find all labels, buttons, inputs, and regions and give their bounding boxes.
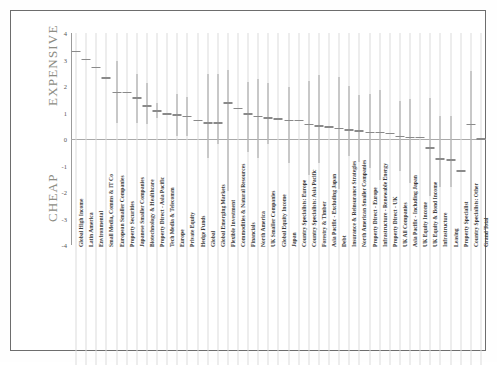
median-marker[interactable]	[304, 124, 313, 126]
x-tick-label: Infrastructure	[442, 213, 448, 247]
chart-frame: EXPENSIVE CHEAP 43210-1-2-3-4 Global Hig…	[10, 10, 486, 351]
x-tick-label: Latin America	[88, 212, 94, 247]
x-tick-label: Grand Total	[483, 218, 489, 247]
median-marker[interactable]	[223, 102, 232, 104]
median-marker[interactable]	[355, 130, 364, 132]
median-marker[interactable]	[456, 170, 465, 172]
range-whisker	[146, 83, 147, 124]
range-whisker	[359, 95, 360, 161]
x-tick-label: Country Specialists: Asia Pacific	[311, 169, 317, 247]
range-whisker	[227, 70, 228, 191]
median-marker[interactable]	[153, 110, 162, 112]
range-whisker	[450, 116, 451, 186]
median-marker[interactable]	[102, 77, 111, 79]
x-tick-label: North American Smaller Companies	[361, 160, 367, 247]
median-marker[interactable]	[375, 132, 384, 134]
x-tick-label: UK Equity Income	[422, 202, 428, 247]
median-marker[interactable]	[72, 51, 81, 53]
x-tick-label: Property Direct - Asia Pacific	[159, 177, 165, 247]
median-marker[interactable]	[82, 59, 91, 61]
median-marker[interactable]	[233, 108, 242, 110]
y-tick-label: -2	[62, 189, 67, 196]
axis-label-expensive: EXPENSIVE	[45, 24, 61, 106]
median-marker[interactable]	[122, 92, 131, 94]
median-marker[interactable]	[264, 117, 273, 119]
median-marker[interactable]	[345, 129, 354, 131]
x-tick-label: Japan	[291, 232, 297, 247]
range-whisker	[288, 87, 289, 163]
x-tick-label: Europe	[179, 229, 185, 247]
median-marker[interactable]	[254, 116, 263, 118]
median-marker[interactable]	[244, 113, 253, 115]
median-marker[interactable]	[112, 92, 121, 94]
median-marker[interactable]	[365, 132, 374, 134]
x-tick-label: Asia Pacific - Including Japan	[412, 175, 418, 247]
median-marker[interactable]	[476, 138, 485, 140]
x-tick-label: Property Securities	[129, 201, 135, 247]
range-whisker	[379, 90, 380, 180]
median-marker[interactable]	[294, 120, 303, 122]
median-marker[interactable]	[314, 125, 323, 127]
x-tick-label: UK All Companies	[402, 202, 408, 247]
range-whisker	[339, 77, 340, 190]
x-tick-label: Biotechnology & Healthcare	[149, 179, 155, 247]
x-tick-label: North America	[260, 211, 266, 247]
y-tick-label: 3	[64, 56, 67, 63]
y-tick-label: 0	[64, 136, 67, 143]
range-whisker	[470, 71, 471, 210]
x-tick-label: Private Equity	[189, 212, 195, 247]
median-marker[interactable]	[132, 97, 141, 99]
x-tick-label: UK Equity & Bond Income	[432, 182, 438, 247]
median-marker[interactable]	[426, 147, 435, 149]
median-marker[interactable]	[436, 158, 445, 160]
x-tick-label: Hedge Funds	[200, 215, 206, 247]
median-marker[interactable]	[335, 128, 344, 130]
median-marker[interactable]	[213, 122, 222, 124]
x-tick-label: Forestry & Timber	[321, 201, 327, 247]
range-whisker	[440, 116, 441, 186]
median-marker[interactable]	[183, 116, 192, 118]
median-marker[interactable]	[466, 124, 475, 126]
median-marker[interactable]	[92, 67, 101, 69]
range-whisker	[217, 74, 218, 144]
median-marker[interactable]	[416, 137, 425, 139]
median-marker[interactable]	[395, 136, 404, 138]
data-column[interactable]	[203, 33, 213, 245]
y-tick-label: 4	[64, 30, 67, 37]
x-tick-label: Flexible Investment	[230, 200, 236, 247]
x-tick-label: Country Specialists: Other	[473, 183, 479, 247]
median-marker[interactable]	[325, 126, 334, 128]
range-whisker	[410, 99, 411, 182]
y-tick-label: -4	[62, 242, 67, 249]
median-marker[interactable]	[385, 133, 394, 135]
median-marker[interactable]	[142, 105, 151, 107]
median-marker[interactable]	[173, 114, 182, 116]
median-marker[interactable]	[274, 118, 283, 120]
median-marker[interactable]	[193, 120, 202, 122]
x-tick-label: Global Equity Income	[281, 194, 287, 247]
x-tick-label: Property Specialist	[463, 202, 469, 247]
x-tick-label: Commodities & Natural Resources	[240, 164, 246, 247]
x-tick-label: Property Direct - Europe	[372, 187, 378, 247]
range-whisker	[258, 79, 259, 157]
x-tick-label: Global Emerging Markets	[220, 184, 226, 247]
x-tick-label: Environmental	[98, 211, 104, 247]
median-marker[interactable]	[284, 120, 293, 122]
median-marker[interactable]	[203, 122, 212, 124]
median-marker[interactable]	[446, 159, 455, 161]
range-whisker	[268, 83, 269, 144]
median-marker[interactable]	[163, 113, 172, 115]
x-tick-label: Infrastructure - Renewable Energy	[382, 163, 388, 247]
range-whisker	[349, 86, 350, 156]
range-whisker	[318, 75, 319, 162]
axis-label-cheap: CHEAP	[45, 173, 61, 222]
y-tick-label: 1	[64, 109, 67, 116]
x-tick-label: Asia Pacific - Excluding Japan	[331, 174, 337, 247]
median-marker[interactable]	[406, 137, 415, 139]
range-whisker	[308, 81, 309, 175]
x-tick-label: Japanese Smaller Companies	[139, 177, 145, 247]
y-tick-label: -3	[62, 215, 67, 222]
y-tick-label: 2	[64, 83, 67, 90]
range-whisker	[207, 74, 208, 157]
